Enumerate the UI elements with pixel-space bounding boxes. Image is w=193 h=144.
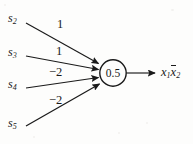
input-subscript-s2: 2 [13, 17, 17, 26]
output-term2-overbar-group: x [171, 66, 177, 79]
weight-label-s5: −2 [49, 94, 62, 107]
weight-label-s4: −2 [49, 66, 62, 79]
input-label-s2: s2 [8, 12, 17, 26]
threshold-gate-diagram: s2 s3 s4 s5 1 1 −2 −2 0.5 x1x2 [0, 0, 193, 144]
input-subscript-s3: 3 [13, 51, 17, 60]
edge-s4 [26, 78, 99, 89]
input-base-s4: s [8, 77, 13, 91]
input-subscript-s4: 4 [13, 83, 17, 92]
input-base-s2: s [8, 11, 13, 25]
input-label-s3: s3 [8, 46, 17, 60]
threshold-value: 0.5 [100, 68, 126, 80]
input-label-s5: s5 [8, 117, 17, 131]
weight-label-s2: 1 [57, 18, 63, 31]
overbar-icon [171, 65, 176, 66]
input-base-s3: s [8, 45, 13, 59]
output-term2-subscript: 2 [176, 71, 180, 80]
output-term2-base: x [171, 65, 177, 79]
input-subscript-s5: 5 [13, 122, 17, 131]
output-label: x1x2 [161, 66, 180, 80]
edge-s5 [26, 84, 100, 126]
input-base-s5: s [8, 116, 13, 130]
input-label-s4: s4 [8, 78, 17, 92]
weight-label-s3: 1 [56, 45, 62, 58]
